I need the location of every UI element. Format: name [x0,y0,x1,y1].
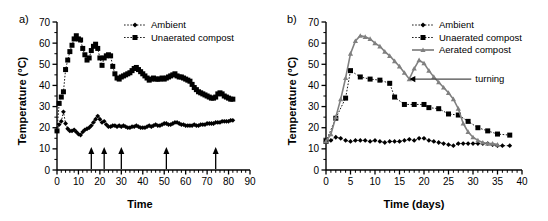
y-tick-label: 40 [39,80,51,91]
data-point [67,49,72,54]
legend-marker [421,35,426,40]
panel-b-label: b) [287,13,297,25]
data-point [82,52,87,57]
x-tick-label: 30 [116,176,128,187]
data-point [402,102,407,107]
panel-a-x-axis-label: Time [80,198,200,210]
y-tick-label: 20 [39,122,51,133]
y-tick-label: 50 [308,59,320,70]
data-point [368,139,373,144]
legend-marker [420,22,425,27]
legend-marker [133,35,138,40]
x-tick-label: 80 [223,176,235,187]
data-point [417,136,422,141]
x-tick-label: 60 [180,176,192,187]
data-point [422,136,427,141]
data-point [328,131,333,136]
data-point [63,121,68,126]
panel-b-x-axis-label: Time (days) [349,198,479,210]
x-tick-label: 5 [348,176,354,187]
turning-arrow-marker [213,147,219,169]
data-point [387,139,392,144]
y-tick-label: 30 [308,101,320,112]
y-tick-label: 30 [39,101,51,112]
x-tick-label: 20 [94,176,106,187]
data-point [412,102,417,107]
data-point [348,68,353,73]
data-point [507,143,512,148]
data-point [358,138,363,143]
data-point [78,37,83,42]
data-point [363,138,368,143]
data-point [461,121,466,126]
y-tick-label: 0 [313,165,319,176]
legend: AmbientUnaerated compost [124,19,234,43]
data-point [65,58,70,63]
panel-b-y-axis-label: Temperature (°C) [286,41,298,161]
turning-arrow-marker [101,147,107,169]
data-point [61,89,66,94]
data-point [100,63,105,68]
legend-label: Ambient [151,19,186,30]
data-point [446,142,451,147]
data-point [392,95,397,100]
data-point [402,138,407,143]
data-point [343,138,348,143]
data-point [87,55,92,60]
data-point [358,74,363,79]
data-point [426,105,431,110]
x-tick-label: 15 [394,176,406,187]
x-tick-label: 25 [443,176,455,187]
data-point [417,57,422,62]
panel-a-y-axis-label: Temperature (°C) [16,41,28,161]
data-point [373,138,378,143]
x-tick-label: 40 [516,176,528,187]
data-point [338,136,343,141]
data-point [436,140,441,145]
data-point [397,139,402,144]
data-point [343,75,348,80]
legend-label: Unaerated compost [439,32,522,43]
data-point [348,139,353,144]
data-point [368,77,373,82]
x-tick-label: 10 [369,176,381,187]
panel-a-plot: 0102030405060700102030405060708090Ambien… [0,0,274,221]
turning-arrow-marker [88,147,94,169]
data-point [55,128,60,133]
data-point [387,81,392,86]
y-tick-label: 10 [308,143,320,154]
y-tick-label: 60 [39,38,51,49]
data-point [382,140,387,145]
data-point [422,102,427,107]
y-tick-label: 0 [44,165,50,176]
data-point [353,138,358,143]
panel-a-label: a) [19,13,29,25]
data-point [377,78,382,83]
data-point [95,46,100,51]
data-point [59,95,64,100]
figure-container: 0102030405060700102030405060708090Ambien… [0,0,548,221]
data-point [57,101,62,106]
data-point [466,141,471,146]
legend-label: Ambient [439,19,474,30]
turning-annotation: turning [409,73,504,84]
series-unaerated-compost [55,33,236,133]
data-point [80,46,85,51]
data-point [456,141,461,146]
y-tick-label: 70 [39,17,51,28]
y-tick-label: 50 [39,59,51,70]
series-ambient [55,109,236,137]
data-point [407,137,412,142]
x-tick-label: 0 [323,176,329,187]
data-point [441,141,446,146]
data-point [431,139,436,144]
legend-label: Unaerated compost [151,32,234,43]
y-tick-label: 40 [308,80,320,91]
data-point [471,141,476,146]
legend-marker [132,22,137,27]
legend-label: Aerated compost [439,44,511,55]
data-point [500,143,505,148]
x-tick-label: 40 [137,176,149,187]
data-point [333,135,338,140]
data-point [412,138,417,143]
